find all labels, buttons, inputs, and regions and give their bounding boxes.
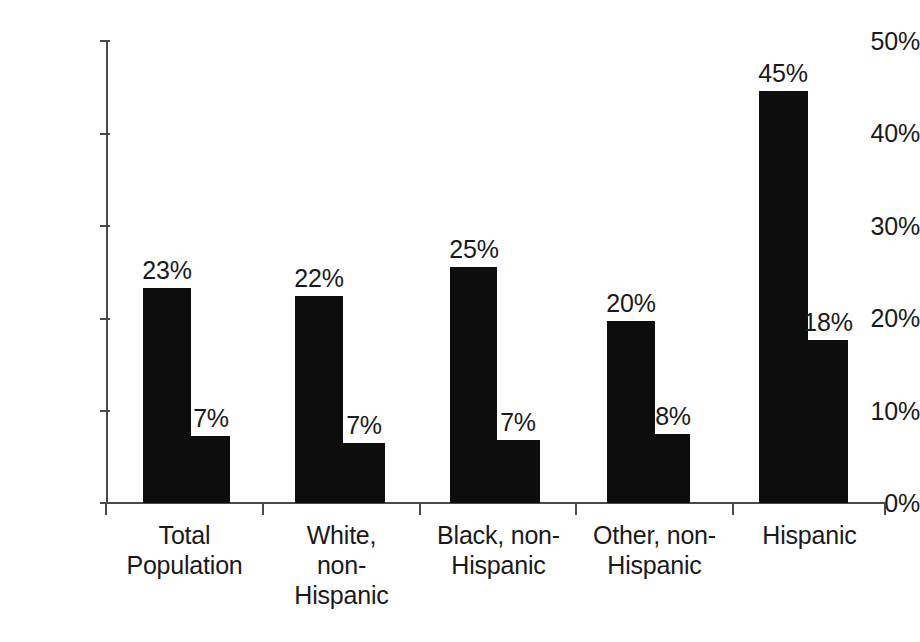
bar-total-population-series-2 bbox=[191, 436, 230, 503]
x-category-line: non- bbox=[263, 550, 420, 580]
bar-value-label-white-non-hispanic-series-1: 22% bbox=[279, 266, 359, 291]
bar-white-non-hispanic-series-2 bbox=[343, 443, 385, 503]
y-axis-label-40: 40% bbox=[842, 121, 920, 146]
bar-black-non-hispanic-series-1 bbox=[450, 267, 497, 503]
y-tick-40 bbox=[100, 133, 110, 135]
x-category-label-total-population: Total Population bbox=[106, 520, 263, 580]
x-category-label-hispanic: Hispanic bbox=[733, 520, 886, 550]
y-tick-10 bbox=[100, 410, 110, 412]
x-category-line: White, bbox=[263, 520, 420, 550]
x-tick-3 bbox=[575, 503, 577, 515]
x-category-line: Hispanic bbox=[420, 550, 577, 580]
y-tick-30 bbox=[100, 225, 110, 227]
x-category-label-other-non-hispanic: Other, non- Hispanic bbox=[576, 520, 733, 580]
y-axis-label-50: 50% bbox=[842, 29, 920, 54]
bar-value-label-black-non-hispanic-series-2: 7% bbox=[478, 410, 558, 435]
x-tick-4 bbox=[732, 503, 734, 515]
bar-hispanic-series-2 bbox=[808, 340, 848, 503]
bar-value-label-white-non-hispanic-series-2: 7% bbox=[324, 413, 404, 438]
x-category-line: Population bbox=[106, 550, 263, 580]
bar-value-label-total-population-series-1: 23% bbox=[127, 258, 207, 283]
x-category-label-black-non-hispanic: Black, non- Hispanic bbox=[420, 520, 577, 580]
bar-total-population-series-1 bbox=[143, 288, 191, 503]
y-tick-50 bbox=[100, 40, 110, 42]
bar-chart: 50% 40% 30% 20% 10% 0% Total Population … bbox=[0, 0, 920, 642]
y-tick-20 bbox=[100, 318, 110, 320]
bar-value-label-hispanic-series-1: 45% bbox=[743, 61, 823, 86]
bar-value-label-other-non-hispanic-series-2: 8% bbox=[633, 404, 713, 429]
bar-other-non-hispanic-series-2 bbox=[655, 434, 690, 503]
bar-black-non-hispanic-series-2 bbox=[497, 440, 540, 503]
y-axis-label-10: 10% bbox=[842, 399, 920, 424]
x-tick-0 bbox=[105, 503, 107, 515]
x-tick-2 bbox=[419, 503, 421, 515]
x-category-line: Hispanic bbox=[263, 580, 420, 610]
x-category-line: Total bbox=[106, 520, 263, 550]
y-axis-line bbox=[106, 40, 108, 504]
bar-hispanic-series-1 bbox=[759, 91, 808, 503]
x-category-line: Hispanic bbox=[576, 550, 733, 580]
x-tick-1 bbox=[262, 503, 264, 515]
bar-value-label-black-non-hispanic-series-1: 25% bbox=[434, 237, 514, 262]
x-category-line: Other, non- bbox=[576, 520, 733, 550]
bar-value-label-total-population-series-2: 7% bbox=[171, 406, 251, 431]
x-category-line: Hispanic bbox=[733, 520, 886, 550]
bar-value-label-other-non-hispanic-series-1: 20% bbox=[591, 291, 671, 316]
x-tick-5 bbox=[884, 503, 886, 515]
bar-white-non-hispanic-series-1 bbox=[295, 296, 343, 503]
x-category-label-white-non-hispanic: White, non- Hispanic bbox=[263, 520, 420, 610]
y-axis-label-30: 30% bbox=[842, 214, 920, 239]
x-category-line: Black, non- bbox=[420, 520, 577, 550]
bar-value-label-hispanic-series-2: 18% bbox=[788, 310, 868, 335]
